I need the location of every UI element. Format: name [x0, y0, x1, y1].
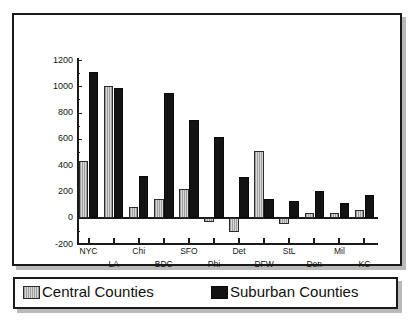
y-tick-mark: [77, 113, 82, 114]
y-tick-label: 200: [40, 187, 73, 196]
x-category-label-bdc: BDC: [144, 259, 184, 269]
y-tick-label: 400: [40, 161, 73, 170]
y-tick-minor: [77, 231, 80, 232]
bar-kc-central: [355, 210, 365, 217]
x-tick-mark: [313, 238, 315, 245]
bar-la-suburban: [114, 88, 124, 218]
x-category-label-dfw: DFW: [244, 259, 284, 269]
x-category-label-den: Den: [294, 259, 334, 269]
bar-nyc-suburban: [89, 72, 99, 218]
chart-legend: Central Counties Suburban Counties: [13, 277, 398, 309]
bar-la-central: [104, 86, 114, 217]
legend-swatch-central-icon: [23, 286, 40, 299]
bar-bdc-central: [154, 199, 164, 218]
y-tick-mark: [77, 244, 82, 245]
x-tick-mark: [263, 238, 265, 245]
bar-mil-central: [330, 213, 340, 217]
y-tick-minor: [77, 126, 80, 127]
y-tick-label: 600: [40, 134, 73, 143]
x-category-label-sfo: SFO: [169, 246, 209, 256]
x-category-label-kc: KC: [344, 259, 384, 269]
x-axis-category-line: [77, 243, 378, 245]
x-tick-mark: [138, 238, 140, 245]
y-tick-label: 0: [40, 213, 73, 222]
x-category-label-nyc: NYC: [69, 246, 109, 256]
x-tick-mark: [113, 238, 115, 245]
x-category-label-stl: StL: [269, 246, 309, 256]
legend-entry-central: Central Counties: [23, 284, 154, 300]
y-tick-label: 800: [40, 108, 73, 117]
y-tick-minor: [77, 152, 80, 153]
x-category-label-mil: Mil: [319, 246, 359, 256]
bar-sfo-central: [179, 189, 189, 217]
x-tick-mark: [338, 238, 340, 245]
legend-swatch-suburban-icon: [211, 286, 228, 299]
bar-dfw-suburban: [264, 199, 274, 217]
bar-den-central: [305, 213, 315, 218]
x-tick-mark: [188, 238, 190, 245]
bar-det-suburban: [239, 177, 249, 218]
bar-bdc-suburban: [164, 93, 174, 218]
bar-den-suburban: [315, 191, 325, 217]
bar-chi-central: [129, 207, 139, 218]
bar-nyc-central: [79, 161, 89, 218]
x-category-label-phi: Phi: [194, 259, 234, 269]
x-tick-mark: [238, 238, 240, 245]
bar-sfo-suburban: [189, 120, 199, 217]
x-category-label-la: LA: [94, 259, 134, 269]
y-tick-minor: [77, 73, 80, 74]
y-tick-label: 1200: [40, 56, 73, 65]
bar-mil-suburban: [340, 203, 350, 218]
x-tick-mark: [88, 238, 90, 245]
legend-entry-suburban: Suburban Counties: [211, 284, 358, 300]
y-tick-label: 1000: [40, 82, 73, 91]
bar-dfw-central: [254, 151, 264, 218]
legend-label-suburban: Suburban Counties: [230, 284, 358, 300]
x-tick-mark: [363, 238, 365, 245]
bar-det-central: [229, 218, 239, 232]
bar-stl-central: [279, 218, 289, 224]
x-tick-mark: [288, 238, 290, 245]
bar-phi-suburban: [214, 137, 224, 218]
x-category-label-det: Det: [219, 246, 259, 256]
bar-phi-central: [204, 218, 214, 223]
x-tick-mark: [213, 238, 215, 245]
x-category-label-chi: Chi: [119, 246, 159, 256]
y-tick-mark: [77, 86, 82, 87]
y-tick-minor: [77, 99, 80, 100]
bar-chi-suburban: [139, 176, 149, 217]
bar-kc-suburban: [365, 195, 375, 217]
y-tick-mark: [77, 218, 82, 219]
chart-figure: Number in thousands 12001000800600400200…: [0, 0, 416, 324]
x-tick-mark: [163, 238, 165, 245]
legend-label-central: Central Counties: [42, 284, 154, 300]
y-tick-mark: [77, 139, 82, 140]
bar-stl-suburban: [289, 201, 299, 217]
y-tick-mark: [77, 60, 82, 61]
